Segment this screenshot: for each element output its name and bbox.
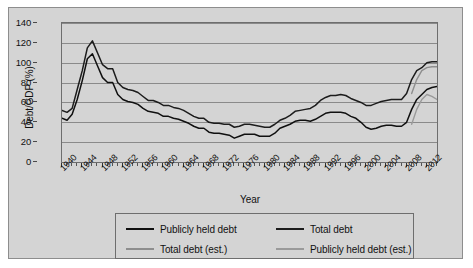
y-axis-tick-label: 120 <box>16 36 31 47</box>
legend-item-total-debt-est: Total debt (est.) <box>116 244 266 255</box>
legend-item-total-debt: Total debt <box>266 224 352 235</box>
y-axis-tick-label: 80 <box>21 76 31 87</box>
chart-frame: Debt/GDP (%) 140120100806040200 19401944… <box>8 7 463 259</box>
legend-swatch-publicly-held-debt-est <box>276 248 304 250</box>
y-axis-tick-label: 140 <box>16 17 31 28</box>
x-axis-title: Year <box>61 194 439 205</box>
legend-item-publicly-held-debt-est: Publicly held debt (est.) <box>266 244 411 255</box>
y-axis-tick-mark <box>33 22 37 23</box>
y-axis-tick-mark <box>33 82 37 83</box>
y-axis-tick-label: 0 <box>26 156 31 167</box>
data-series-lines <box>62 23 437 162</box>
y-axis-tick-mark <box>33 101 37 102</box>
y-axis-tick-labels: 140120100806040200 <box>9 8 61 168</box>
legend-row: Total debt (est.) Publicly held debt (es… <box>116 239 413 259</box>
y-axis-tick-label: 20 <box>21 136 31 147</box>
x-axis-tick-labels: 1940194419481952195619601964196819721976… <box>61 166 451 196</box>
y-axis-tick-mark <box>33 141 37 142</box>
y-axis-tick-label: 40 <box>21 116 31 127</box>
y-axis-tick-mark <box>33 121 37 122</box>
chart-legend: Publicly held debt Total debt Total debt… <box>115 213 414 259</box>
legend-label-publicly-held-debt-est: Publicly held debt (est.) <box>310 244 411 255</box>
legend-label-total-debt-est: Total debt (est.) <box>160 244 227 255</box>
series-line <box>412 67 437 94</box>
chart-figure: Debt/GDP (%) 140120100806040200 19401944… <box>0 0 473 268</box>
y-axis-tick-mark <box>33 161 37 162</box>
series-line <box>62 54 437 138</box>
plot-area <box>61 22 438 163</box>
legend-row: Publicly held debt Total debt <box>116 219 413 239</box>
series-line <box>412 94 437 124</box>
legend-swatch-total-debt <box>276 228 304 230</box>
legend-swatch-publicly-held-debt <box>126 228 154 230</box>
y-axis-tick-mark <box>33 62 37 63</box>
legend-item-publicly-held-debt: Publicly held debt <box>116 224 266 235</box>
y-axis-tick-label: 60 <box>21 96 31 107</box>
legend-swatch-total-debt-est <box>126 248 154 250</box>
legend-label-publicly-held-debt: Publicly held debt <box>160 224 237 235</box>
y-axis-tick-label: 100 <box>16 56 31 67</box>
legend-label-total-debt: Total debt <box>310 224 352 235</box>
series-line <box>62 41 437 127</box>
y-axis-tick-mark <box>33 42 37 43</box>
